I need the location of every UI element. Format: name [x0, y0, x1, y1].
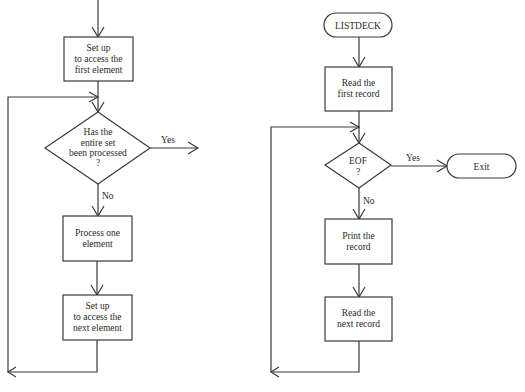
- decision-text: EOF: [349, 156, 367, 166]
- left-flowchart: Set up to access the first element Has t…: [8, 0, 198, 377]
- box-text: Read the: [342, 78, 376, 88]
- terminal-text: LISTDECK: [335, 21, 381, 31]
- box-text: to access the: [74, 54, 122, 64]
- box-text: Set up: [86, 43, 110, 53]
- no-label: No: [363, 196, 375, 206]
- box-text: Read the: [342, 308, 376, 318]
- decision-text: ?: [356, 167, 360, 177]
- yes-label: Yes: [161, 135, 175, 145]
- box-text: to access the: [73, 312, 121, 322]
- box-text: record: [346, 242, 371, 252]
- return-connector: [8, 340, 97, 372]
- box-text: Set up: [85, 301, 109, 311]
- decision-text: Has the: [84, 127, 113, 137]
- decision-text: entire set: [81, 138, 116, 148]
- box-text: first record: [338, 89, 380, 99]
- decision-text: ?: [96, 158, 100, 168]
- return-connector: [271, 341, 359, 372]
- box-text: Print the: [342, 231, 374, 241]
- right-flowchart: LISTDECK Read the first record EOF ? Yes…: [271, 13, 516, 377]
- box-text: next element: [73, 323, 122, 333]
- box-text: Process one: [75, 228, 120, 238]
- flowchart-canvas: Set up to access the first element Has t…: [0, 0, 525, 392]
- terminal-text: Exit: [474, 162, 490, 172]
- decision-text: been processed: [69, 148, 127, 158]
- yes-label: Yes: [406, 153, 420, 163]
- box-text: element: [82, 239, 112, 249]
- no-label: No: [102, 191, 114, 201]
- box-text: next record: [337, 319, 380, 329]
- box-text: first element: [75, 65, 123, 75]
